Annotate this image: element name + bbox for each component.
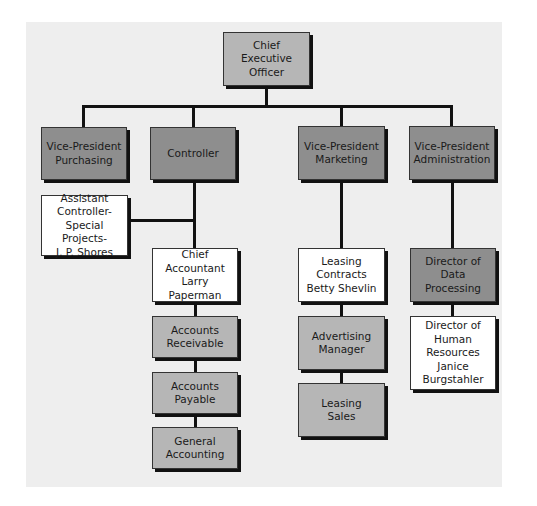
node-ceo: Chief Executive Officer bbox=[223, 32, 310, 86]
node-leasing-contracts: Leasing Contracts Betty Shevlin bbox=[298, 248, 385, 302]
node-director-human-resources: Director of Human Resources Janice Burgs… bbox=[410, 316, 496, 390]
node-vp-marketing: Vice-President Marketing bbox=[298, 126, 385, 180]
connector-ar-ap bbox=[194, 358, 197, 372]
connector-admin-down bbox=[451, 180, 454, 248]
connector-chief-accountant-ar bbox=[194, 302, 197, 316]
connector-controller bbox=[192, 105, 195, 127]
connector-ceo-down bbox=[265, 86, 268, 107]
connector-dp-hr bbox=[451, 302, 454, 316]
node-controller: Controller bbox=[150, 127, 236, 180]
node-advertising-manager: Advertising Manager bbox=[298, 316, 385, 370]
connector-lc-am bbox=[340, 302, 343, 316]
node-vp-administration: Vice-President Administration bbox=[409, 126, 495, 180]
connector-controller-down bbox=[193, 180, 196, 248]
connector-ap-ga bbox=[194, 414, 197, 427]
connector-vp-purchasing bbox=[82, 105, 85, 127]
node-leasing-sales: Leasing Sales bbox=[298, 383, 385, 437]
node-chief-accountant: Chief Accountant Larry Paperman bbox=[152, 248, 238, 302]
node-accounts-payable: Accounts Payable bbox=[152, 372, 238, 414]
connector-assistant-controller bbox=[128, 219, 194, 222]
node-director-data-processing: Director of Data Processing bbox=[410, 248, 496, 302]
node-accounts-receivable: Accounts Receivable bbox=[152, 316, 238, 358]
node-general-accounting: General Accounting bbox=[152, 427, 238, 469]
connector-am-ls bbox=[340, 370, 343, 383]
node-vp-purchasing: Vice-President Purchasing bbox=[41, 127, 127, 180]
connector-marketing-down bbox=[340, 180, 343, 248]
connector-vp-administration bbox=[450, 105, 453, 127]
connector-vp-marketing bbox=[340, 105, 343, 127]
node-assistant-controller: Assistant Controller- Special Projects- … bbox=[41, 195, 128, 256]
connector-top-bar bbox=[82, 105, 453, 108]
